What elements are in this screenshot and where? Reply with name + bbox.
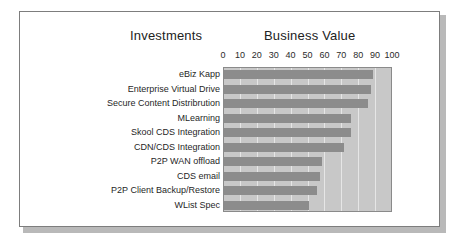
- category-label: P2P Client Backup/Restore: [60, 183, 220, 198]
- bar-row: [224, 155, 392, 170]
- plot-area: [223, 67, 392, 212]
- bar: [224, 157, 322, 166]
- category-label: WList Spec: [60, 198, 220, 213]
- category-label: CDN/CDS Integration: [60, 140, 220, 155]
- screenshot-canvas: Investments Business Value 0102030405060…: [0, 0, 458, 247]
- bar-row: [224, 184, 392, 199]
- x-tick-label: 60: [319, 50, 329, 60]
- bar: [224, 85, 371, 94]
- bar: [224, 143, 344, 152]
- bar-row: [224, 141, 392, 156]
- bar: [224, 114, 351, 123]
- bar: [224, 128, 351, 137]
- x-tick-label: 70: [336, 50, 346, 60]
- bar: [224, 70, 373, 79]
- bar-row: [224, 112, 392, 127]
- bar-row: [224, 126, 392, 141]
- chart-title-business-value: Business Value: [264, 28, 355, 43]
- category-axis-labels: eBiz KappEnterprise Virtual DriveSecure …: [60, 67, 220, 212]
- category-label: Secure Content Distribrution: [60, 96, 220, 111]
- x-tick-label: 10: [235, 50, 245, 60]
- category-label: Enterprise Virtual Drive: [60, 82, 220, 97]
- bar-row: [224, 170, 392, 185]
- category-label: MLearning: [60, 111, 220, 126]
- bar: [224, 99, 368, 108]
- category-label: CDS email: [60, 169, 220, 184]
- bar-row: [224, 83, 392, 98]
- bar-row: [224, 68, 392, 83]
- chart-figure: Investments Business Value 0102030405060…: [19, 11, 440, 227]
- x-tick-label: 30: [269, 50, 279, 60]
- x-tick-label: 20: [252, 50, 262, 60]
- category-label: Skool CDS Integration: [60, 125, 220, 140]
- bar: [224, 201, 309, 210]
- bar: [224, 172, 320, 181]
- bar-row: [224, 199, 392, 213]
- x-tick-label: 50: [302, 50, 312, 60]
- x-tick-label: 80: [353, 50, 363, 60]
- x-tick-label: 90: [370, 50, 380, 60]
- x-axis-tick-labels: 0102030405060708090100: [223, 50, 390, 62]
- category-label: eBiz Kapp: [60, 67, 220, 82]
- x-tick-label: 100: [384, 50, 399, 60]
- bar-row: [224, 97, 392, 112]
- x-tick-label: 0: [220, 50, 225, 60]
- x-tick-label: 40: [286, 50, 296, 60]
- category-label: P2P WAN offload: [60, 154, 220, 169]
- column-heading-investments: Investments: [130, 28, 202, 43]
- bar: [224, 186, 317, 195]
